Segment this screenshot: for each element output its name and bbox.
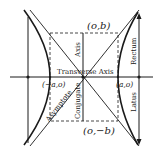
- left-vertex-point: [49, 76, 51, 78]
- label-latus-rectum-top: Rectum: [130, 37, 138, 65]
- right-vertex-point: [117, 76, 119, 78]
- label-left-vertex: (−a,o): [42, 80, 66, 89]
- label-conjugate-axis-bottom: Conjugate: [74, 83, 82, 119]
- left-focus-point: [26, 75, 29, 78]
- label-latus-rectum-bottom: Latus: [130, 92, 138, 112]
- label-right-vertex: (a,o): [116, 80, 133, 89]
- label-transverse-axis: Transverse Axis: [57, 68, 114, 76]
- hyperbola-diagram: (o,b) (o,−b) (−a,o) (a,o) Transverse Axi…: [0, 0, 162, 156]
- label-conjugate-axis-top: Axis: [74, 42, 82, 58]
- right-focus-point: [137, 75, 140, 78]
- label-top-vertex: (o,b): [87, 20, 111, 31]
- label-bottom-vertex: (o,−b): [83, 125, 115, 136]
